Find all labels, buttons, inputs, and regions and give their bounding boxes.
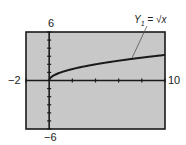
xmin-label: −2 <box>8 75 21 86</box>
ymax-label: 6 <box>48 18 54 29</box>
ymin-label: −6 <box>44 132 57 143</box>
series-annotation: Y1 = √x <box>134 15 166 27</box>
series-label-y: Y <box>134 14 141 25</box>
xmax-label: 10 <box>168 75 180 86</box>
series-label-eq: = √x <box>145 14 167 25</box>
